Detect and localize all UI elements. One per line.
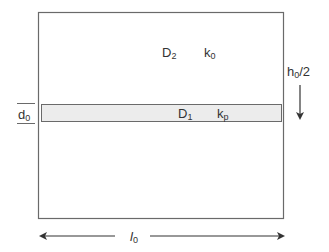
h0-half-label: h0/2: [287, 64, 310, 80]
inner-band-rect: [42, 105, 282, 122]
l0-label: l0: [130, 229, 138, 245]
d0-label: d0: [18, 107, 30, 123]
slab-diagram: d0 D2 k0 D1 kp h0/2 l0: [0, 0, 329, 252]
